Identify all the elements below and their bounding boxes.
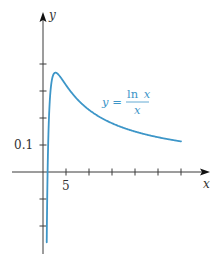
- curve-equation-label: y = ln x x: [101, 87, 151, 117]
- equation-num-var: x: [144, 87, 151, 101]
- equation-numerator: ln x: [127, 87, 151, 101]
- x-axis-label: x: [203, 177, 210, 191]
- equation-denominator: x: [134, 103, 141, 117]
- x-tick-label-5: 5: [62, 179, 70, 193]
- equation-ln: ln: [127, 87, 139, 101]
- axes: [12, 12, 210, 254]
- equation-lhs: y =: [101, 95, 122, 109]
- y-tick-label-0.1: 0.1: [14, 138, 33, 152]
- y-axis-label: y: [48, 8, 56, 22]
- function-graph: y x 5 0.1 y = ln x x: [0, 0, 220, 265]
